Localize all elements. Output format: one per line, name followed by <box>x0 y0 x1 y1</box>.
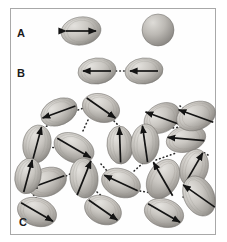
egg-particle-with-double-arrow <box>59 14 103 47</box>
dotted-link <box>156 153 176 160</box>
figure-container: A B C <box>0 0 227 242</box>
egg-particle <box>20 123 54 165</box>
sphere-body <box>142 14 174 46</box>
egg-particle <box>79 89 124 127</box>
egg-particle-left-arrow-2 <box>124 56 165 86</box>
panel-label-C: C <box>19 217 27 228</box>
dotted-link <box>133 163 143 172</box>
dotted-link <box>82 120 88 133</box>
egg-particle <box>68 157 100 200</box>
diagram-canvas <box>0 0 227 242</box>
panel-label-B: B <box>17 68 25 79</box>
panel-label-A: A <box>17 28 25 39</box>
egg-particle <box>141 194 187 232</box>
plain-sphere <box>142 14 174 46</box>
egg-particle <box>36 92 81 131</box>
egg-particle-left-arrow-1 <box>77 56 118 86</box>
egg-particle <box>106 125 135 165</box>
